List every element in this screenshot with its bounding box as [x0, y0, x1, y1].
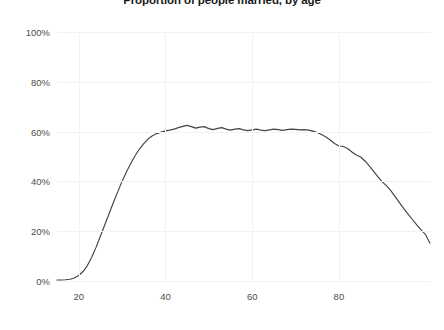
- x-tick-label: 60: [247, 291, 258, 302]
- x-tick-label: 20: [73, 291, 84, 302]
- y-axis: 0%20%40%60%80%100%: [0, 32, 50, 281]
- gridline-horizontal: [57, 181, 430, 182]
- gridline-vertical: [165, 32, 166, 281]
- gridline-horizontal: [57, 231, 430, 232]
- y-tick-label: 60%: [6, 126, 50, 137]
- y-tick-label: 20%: [6, 226, 50, 237]
- gridline-horizontal: [57, 281, 430, 282]
- x-tick-label: 80: [334, 291, 345, 302]
- y-tick-label: 40%: [6, 176, 50, 187]
- gridline-vertical: [339, 32, 340, 281]
- gridline-vertical: [252, 32, 253, 281]
- line-series: [57, 32, 430, 281]
- y-tick-label: 80%: [6, 76, 50, 87]
- plot-area: [57, 32, 430, 281]
- chart-title: Proportion of people married, by age: [0, 0, 444, 6]
- gridline-horizontal: [57, 32, 430, 33]
- y-tick-label: 0%: [6, 276, 50, 287]
- gridline-horizontal: [57, 82, 430, 83]
- chart-figure: Proportion of people married, by age 0%2…: [0, 0, 444, 330]
- gridline-vertical: [79, 32, 80, 281]
- x-tick-label: 40: [160, 291, 171, 302]
- x-axis: 20406080: [57, 291, 430, 311]
- gridline-horizontal: [57, 132, 430, 133]
- series-path-proportion-married: [57, 125, 430, 280]
- y-tick-label: 100%: [6, 27, 50, 38]
